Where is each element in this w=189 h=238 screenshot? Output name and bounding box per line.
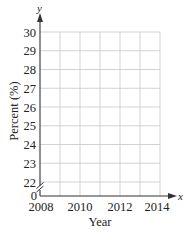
x-axis-arrow-icon: [168, 193, 177, 199]
grid: [40, 32, 160, 196]
y-tick-label: 27: [24, 82, 37, 96]
x-axis-variable: x: [177, 190, 183, 202]
y-tick-label: 25: [24, 119, 37, 133]
y-tick-label: 30: [24, 26, 37, 40]
y-tick-labels: 30 29 28 27 26 25 24 23 22 0: [24, 26, 38, 204]
x-axis-title: Year: [88, 215, 112, 229]
y-tick-label: 28: [24, 63, 37, 77]
x-tick-labels: 2008 2010 2012 2014: [29, 200, 171, 214]
y-tick-label: 26: [24, 101, 37, 115]
y-axis-title: Percent (%): [7, 81, 21, 140]
y-axis-arrow-icon: [37, 13, 43, 22]
x-tick-label: 2014: [145, 200, 171, 214]
y-tick-label: 24: [24, 138, 37, 152]
y-tick-label: 23: [24, 157, 37, 171]
y-tick-label: 29: [24, 44, 37, 58]
x-tick-label: 2008: [29, 200, 54, 214]
chart: y x 30 29 28 27 26 25 24 23 22 0 2008 20…: [0, 0, 189, 238]
y-axis-variable: y: [36, 2, 42, 14]
x-tick-label: 2012: [108, 200, 133, 214]
y-tick-label: 22: [24, 176, 37, 190]
x-tick-label: 2010: [68, 200, 93, 214]
